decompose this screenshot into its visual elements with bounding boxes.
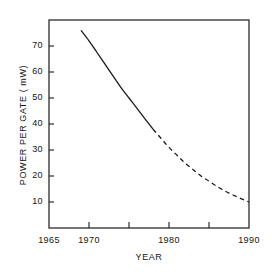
x-tick-label: 1990 [229, 235, 269, 245]
x-tick-label: 1965 [29, 235, 69, 245]
x-tick-label: 1980 [149, 235, 189, 245]
x-tick-label: 1970 [69, 235, 109, 245]
x-axis-title: YEAR [109, 252, 189, 262]
y-axis-title: POWER PER GATE ( mW) [18, 45, 28, 205]
chart-figure: 10203040506070 1965197019801990 POWER PE… [0, 0, 272, 277]
